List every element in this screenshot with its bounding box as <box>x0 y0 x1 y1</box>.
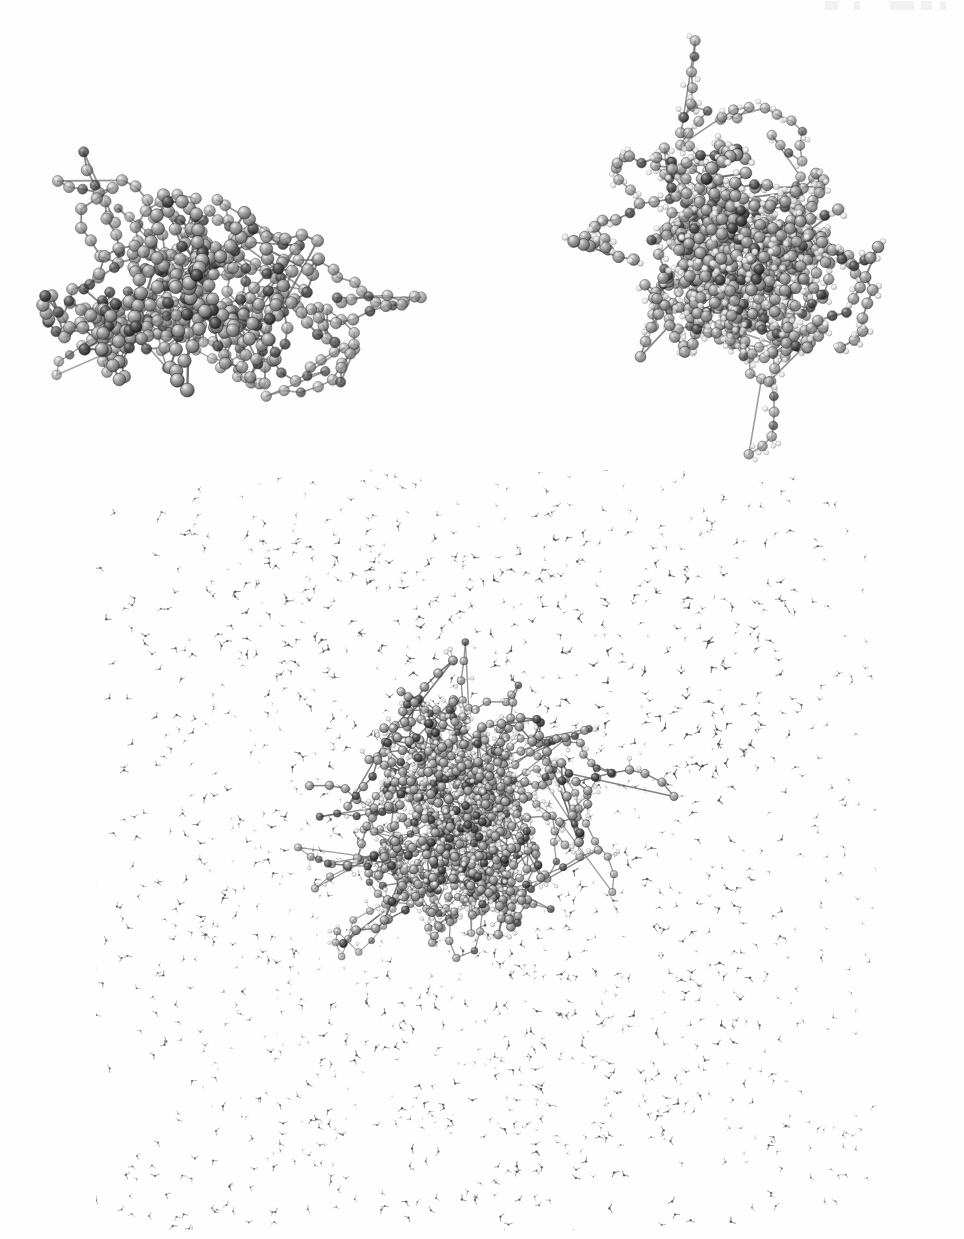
panel-solvated-system <box>96 470 876 1230</box>
atom-layer <box>37 147 427 402</box>
figure-sheet <box>0 0 964 1239</box>
panel-all-atom-model <box>498 18 950 478</box>
molecule-render-allatom <box>498 18 950 478</box>
molecule-render-heavy <box>22 78 442 470</box>
page-header-artifact <box>820 1 950 10</box>
molecule-render-solvated <box>96 470 876 1230</box>
atom-layer <box>562 34 886 462</box>
panel-united-atom-model <box>22 78 442 470</box>
